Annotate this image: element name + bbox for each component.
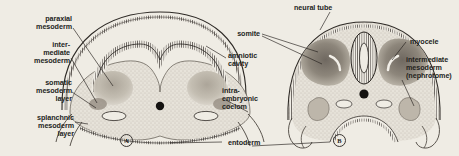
panel-letter-a: A <box>120 134 133 147</box>
panel-letter-b: B <box>333 134 346 147</box>
neural-canal-b <box>360 43 369 73</box>
label-entoderm: entoderm <box>228 139 278 147</box>
label-amniotic-cavity: amniotic cavity <box>228 52 278 68</box>
notochord-b <box>359 89 368 98</box>
label-intermediate-mesoderm-a: inter- mediate mesoderm <box>2 41 70 66</box>
notochord-a <box>156 102 164 110</box>
nephrotome-right <box>399 98 420 121</box>
label-somatic-mesoderm-layer: somatic mesoderm layer <box>2 79 72 104</box>
label-intraembryonic-coelom: intra- embryonic coelom <box>222 87 278 112</box>
label-neural-tube: neural tube <box>294 4 344 12</box>
label-myocele: myocele <box>410 38 458 46</box>
label-somite: somite <box>218 30 260 38</box>
nephrotome-left <box>308 98 329 121</box>
coelom-cavity-right-a <box>194 111 218 120</box>
label-paraxial-mesoderm: paraxial mesoderm <box>6 15 72 31</box>
dorsal-aorta-left <box>336 100 352 108</box>
label-intermediate-mesoderm-b: intermediate mesoderm (nephrotome) <box>406 56 459 81</box>
coelom-cavity-left-a <box>102 111 126 120</box>
intermediate-mesoderm-left <box>89 98 107 110</box>
dorsal-aorta-right <box>376 100 392 108</box>
label-splanchnic-mesoderm-layer: splanchnic mesoderm layer <box>2 114 74 139</box>
